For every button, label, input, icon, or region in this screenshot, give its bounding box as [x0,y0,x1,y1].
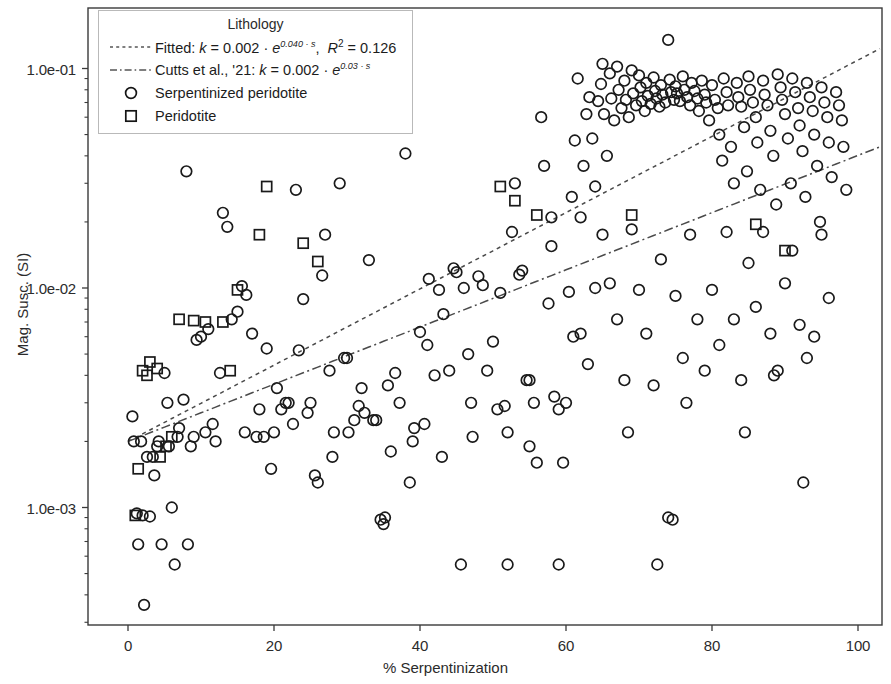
data-point-circle [549,391,560,402]
data-point-circle [587,133,598,144]
data-point-circle [670,291,681,302]
data-point-circle [136,436,147,447]
data-point-circle [787,73,798,84]
data-point-circle [429,370,440,381]
legend-entry-peridotite: Peridotite [107,104,404,127]
data-point-circle [775,82,786,93]
data-point-circle [167,502,178,513]
data-point-circle [759,89,770,100]
data-point-circle [419,419,430,430]
data-point-circle [291,185,302,196]
data-point-circle [597,229,608,240]
data-point-circle [507,227,518,238]
data-point-circle [704,115,715,126]
dashdot-line-icon [107,60,155,80]
data-point-circle [812,161,823,172]
data-point-circle [663,35,674,46]
data-point-circle [721,87,732,98]
data-point-circle [602,151,613,162]
data-point-circle [714,340,725,351]
data-point-circle [743,258,754,269]
data-point-circle [409,423,420,434]
data-point-circle [162,398,173,409]
data-point-circle [200,427,211,438]
data-point-circle [831,87,842,98]
square-marker-icon [107,106,155,126]
data-point-circle [742,166,753,177]
legend-label-serpentinized-peridotite: Serpentinized peridotite [155,85,307,101]
data-point-circle [386,446,397,457]
data-point-circle [156,539,167,550]
data-point-circle [605,278,616,289]
data-point-circle [745,85,756,96]
data-point-circle [383,380,394,391]
data-point-circle [259,432,270,443]
data-point-circle [800,192,811,203]
data-point-circle [771,199,782,210]
data-point-circle [628,88,639,99]
data-point-circle [809,331,820,342]
fitted-exponent: 0.040 · s [280,39,315,49]
data-point-circle [599,109,610,120]
data-point-circle [553,559,564,570]
data-point-circle [294,345,305,356]
data-point-circle [816,229,827,240]
data-point-circle [543,298,554,309]
data-point-circle [272,383,283,394]
data-point-square [495,182,505,192]
data-point-circle [805,92,816,103]
data-point-circle [478,280,489,291]
data-point-circle [169,559,180,570]
data-point-circle [619,375,630,386]
data-point-circle [254,404,265,415]
data-point-circle [232,306,243,317]
data-point-circle [145,511,156,522]
data-point-square [532,210,542,220]
data-point-circle [215,368,226,379]
data-point-circle [816,82,827,93]
data-point-circle [567,192,578,203]
data-point-circle [824,137,835,148]
data-point-circle [612,314,623,325]
data-point-circle [444,365,455,376]
data-point-circle [772,69,783,80]
fitted-mid: = 0.002 · [207,39,273,55]
data-point-circle [466,398,477,409]
data-point-circle [467,432,478,443]
data-point-circle [714,129,725,140]
data-point-circle [612,61,623,72]
x-tick-label: 60 [558,637,574,654]
data-point-circle [626,224,637,235]
data-point-circle [699,365,710,376]
data-point-circle [564,287,575,298]
data-point-circle [320,229,331,240]
data-point-circle [798,477,809,488]
data-point-circle [188,432,199,443]
data-point-square [254,230,264,240]
fitted-r2-symbol: R [327,39,337,55]
data-point-circle [787,245,798,256]
data-point-circle [437,452,448,463]
x-tick-label: 0 [124,637,132,654]
x-tick-label: 40 [412,637,428,654]
data-point-circle [697,75,708,86]
data-point-circle [353,401,364,412]
data-point-circle [127,411,138,422]
cutts-k: k [259,62,266,78]
data-point-circle [794,320,805,331]
data-point-circle [718,73,729,84]
data-point-circle [765,328,776,339]
fitted-r2-value: = 0.126 [344,39,397,55]
data-point-circle [748,97,759,108]
data-point-circle [721,227,732,238]
data-point-circle [438,309,449,320]
y-tick-label: 1.0e-02 [0,280,76,297]
data-point-circle [394,398,405,409]
data-point-circle [729,178,740,189]
data-point-circle [424,274,435,285]
data-point-circle [415,327,426,338]
data-point-circle [583,359,594,370]
data-point-circle [422,340,433,351]
data-point-square [627,210,637,220]
cutts-exponent: 0.03 · s [340,61,370,71]
